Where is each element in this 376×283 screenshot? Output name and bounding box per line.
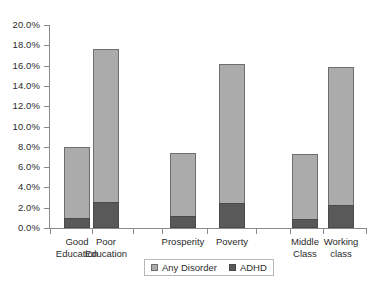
x-axis-tick bbox=[162, 229, 163, 234]
x-axis-label-1: Poor Education bbox=[78, 236, 134, 259]
y-axis-tick-label: 12.0% bbox=[0, 101, 40, 111]
y-axis-tick-label: 4.0% bbox=[0, 182, 40, 192]
bar-segment-adhd bbox=[328, 205, 354, 228]
y-axis-tick-label: 6.0% bbox=[0, 162, 40, 172]
bar-segment-adhd bbox=[93, 202, 119, 228]
plot-area bbox=[50, 25, 366, 228]
bar-segment-any-disorder bbox=[64, 147, 90, 228]
y-axis-tick-label: 10.0% bbox=[0, 122, 40, 132]
chart-legend: Any Disorder ADHD bbox=[144, 259, 274, 276]
x-axis-tick bbox=[133, 229, 134, 234]
y-axis-tick-label: 8.0% bbox=[0, 142, 40, 152]
bar-segment-adhd bbox=[170, 216, 196, 228]
bar-2 bbox=[170, 153, 196, 228]
legend-item-adhd: ADHD bbox=[229, 262, 267, 273]
legend-swatch-any-disorder-icon bbox=[151, 264, 158, 271]
y-axis-tick-label: 20.0% bbox=[0, 20, 40, 30]
y-axis-tick-label: 0.0% bbox=[0, 223, 40, 233]
x-axis-tick bbox=[366, 229, 367, 234]
bar-segment-adhd bbox=[219, 203, 245, 228]
bar-4 bbox=[292, 154, 318, 228]
x-axis-label-3: Poverty bbox=[204, 236, 260, 248]
bar-segment-any-disorder bbox=[292, 154, 318, 228]
stacked-bar-chart: 0.0%2.0%4.0%6.0%8.0%10.0%12.0%14.0%16.0%… bbox=[0, 0, 376, 283]
y-axis-tick-label: 14.0% bbox=[0, 81, 40, 91]
legend-item-any-disorder: Any Disorder bbox=[151, 262, 217, 273]
x-axis-tick bbox=[323, 229, 324, 234]
x-axis-tick bbox=[50, 229, 51, 234]
legend-swatch-adhd-icon bbox=[229, 264, 236, 271]
legend-label-any-disorder: Any Disorder bbox=[162, 262, 217, 273]
bar-segment-adhd bbox=[64, 218, 90, 228]
bar-0 bbox=[64, 147, 90, 228]
x-axis-tick bbox=[207, 229, 208, 234]
x-axis-label-2: Prosperity bbox=[155, 236, 211, 248]
bar-3 bbox=[219, 64, 245, 228]
bar-segment-adhd bbox=[292, 219, 318, 228]
y-axis-tick-label: 2.0% bbox=[0, 203, 40, 213]
y-axis-tick-label: 18.0% bbox=[0, 40, 40, 50]
legend-label-adhd: ADHD bbox=[240, 262, 267, 273]
x-axis-label-5: Working class bbox=[313, 236, 369, 259]
x-axis-line bbox=[49, 228, 367, 229]
y-axis-tick-label: 16.0% bbox=[0, 61, 40, 71]
bar-5 bbox=[328, 67, 354, 228]
x-axis-tick bbox=[92, 229, 93, 234]
bar-1 bbox=[93, 49, 119, 228]
x-axis-tick bbox=[256, 229, 257, 234]
x-axis-tick bbox=[290, 229, 291, 234]
